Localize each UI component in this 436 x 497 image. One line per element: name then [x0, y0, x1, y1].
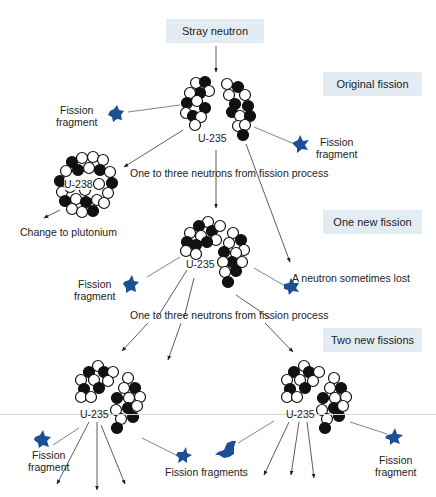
- fission-fragment-label: Fissionfragment: [375, 454, 416, 478]
- neutron-lost-label: A neutron sometimes lost: [292, 272, 410, 284]
- arrow-to-u238: [124, 130, 183, 167]
- stage-two-new-fissions: Two new fissions: [323, 328, 422, 352]
- arrow-neutron-lost: [246, 144, 290, 262]
- u238-label: U-238: [64, 178, 93, 190]
- stage-label: Two new fissions: [331, 334, 414, 346]
- u235-label: U-235: [198, 132, 227, 144]
- neutrons-from-process-label: One to three neutrons from fission proce…: [130, 167, 328, 179]
- divider-line: [0, 414, 436, 415]
- u235-label: U-235: [286, 408, 315, 420]
- arrow-to-right-fission: [265, 323, 293, 352]
- nucleus-u235-new: [181, 217, 250, 288]
- neutrons-from-process-label: One to three neutrons from fission proce…: [130, 309, 328, 321]
- arrow-to-plutonium: [44, 210, 60, 218]
- stray-neutron-label: Stray neutron: [182, 25, 248, 37]
- fragment-star-icon: [123, 275, 139, 293]
- change-to-plutonium-label: Change to plutonium: [20, 226, 117, 238]
- fragment-star-icon: [176, 447, 192, 463]
- nucleus-u235-right: [282, 361, 352, 434]
- stray-neutron-box: Stray neutron: [166, 19, 264, 43]
- fission-fragments-label: Fission fragments: [165, 466, 248, 478]
- u235-label: U-235: [186, 258, 215, 270]
- fragment-star-icon: [292, 135, 309, 153]
- fragment-star-icon: [34, 430, 51, 448]
- stage-original-fission: Original fission: [323, 72, 422, 96]
- stage-label: Original fission: [336, 78, 408, 90]
- u235-label: U-235: [80, 408, 109, 420]
- arrow-down-free: [168, 323, 181, 360]
- fission-fragment-label: Fissionfragment: [316, 136, 357, 160]
- fission-fragment-label: Fissionfragment: [74, 278, 115, 302]
- nucleus-u235-left: [76, 361, 146, 434]
- fission-fragment-label: Fissionfragment: [28, 449, 69, 473]
- fragment-star-icon: [108, 105, 124, 122]
- nucleus-u235-original: [181, 77, 256, 141]
- fission-fragment-label: Fissionfragment: [56, 104, 97, 128]
- stage-label: One new fission: [333, 216, 411, 228]
- stage-one-new-fission: One new fission: [323, 210, 422, 234]
- arrow-to-left-fission: [122, 323, 148, 351]
- fragment-star-icon: [385, 428, 403, 445]
- fragment-star-icon: [215, 441, 236, 458]
- fission-chain-diagram: Stray neutron Original fission One new f…: [0, 0, 436, 497]
